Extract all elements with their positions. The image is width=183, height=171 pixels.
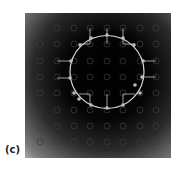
marker-point <box>89 36 93 40</box>
marker-point <box>121 103 125 107</box>
marker-point <box>105 106 109 110</box>
marker-point <box>138 91 142 95</box>
micrograph-figure <box>25 13 171 158</box>
marker-point <box>133 83 137 87</box>
marker-point <box>68 76 72 80</box>
image-background <box>25 13 171 158</box>
panel-label: (c) <box>5 144 20 155</box>
marker-point <box>89 103 93 107</box>
marker-point <box>78 43 82 47</box>
marker-point <box>105 33 109 37</box>
marker-point <box>132 43 136 47</box>
marker-point <box>69 59 73 63</box>
marker-point <box>77 97 81 101</box>
marker-point <box>141 59 145 63</box>
marker-point <box>121 36 125 40</box>
marker-point <box>72 91 76 95</box>
marker-point <box>140 75 144 79</box>
